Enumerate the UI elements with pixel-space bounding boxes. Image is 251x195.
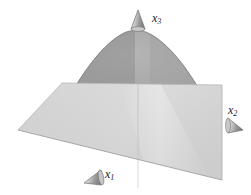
axis-label-x2: x2 xyxy=(228,104,237,116)
surface-plot-svg xyxy=(0,0,251,195)
x1-axis-arrow-icon xyxy=(84,170,105,186)
figure-container: x3 x2 x1 xyxy=(0,0,251,195)
axis-label-x1-sub: 1 xyxy=(110,173,114,182)
axis-label-x1: x1 xyxy=(105,168,114,180)
axis-label-x3: x3 xyxy=(152,12,161,24)
x2-axis-arrow-icon xyxy=(226,118,243,133)
flat-base-plane xyxy=(18,83,222,180)
axis-label-x3-sub: 3 xyxy=(157,17,161,26)
axis-label-x2-sub: 2 xyxy=(233,109,237,118)
x3-axis-arrow-icon xyxy=(131,10,145,31)
